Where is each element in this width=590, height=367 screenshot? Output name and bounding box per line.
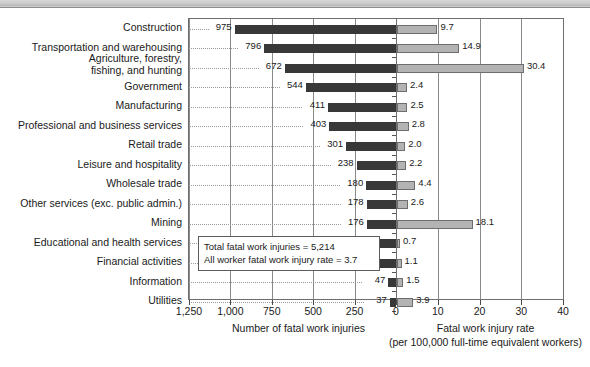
- category-label: Other services (exc. public admin.): [20, 198, 182, 210]
- xlabel-right-10: 10: [432, 305, 444, 317]
- xlabel-left-500: 500: [304, 305, 322, 317]
- bar-injuries: [285, 64, 396, 73]
- value-label-injuries: 47: [360, 274, 385, 285]
- bar-rate: [397, 220, 473, 229]
- value-label-rate: 2.0: [408, 138, 421, 149]
- right-axis-subtitle: (per 100,000 full-time equivalent worker…: [389, 336, 582, 348]
- bar-injuries: [329, 122, 396, 131]
- category-label: Construction: [123, 22, 182, 34]
- bar-rate: [397, 239, 400, 248]
- bar-rate: [397, 161, 406, 170]
- bar-injuries: [367, 220, 396, 229]
- bar-rate: [397, 181, 415, 190]
- category-label: Educational and health services: [34, 237, 182, 249]
- value-label-injuries: 411: [300, 99, 325, 110]
- leader-line: [189, 68, 259, 69]
- value-label-injuries: 238: [329, 157, 354, 168]
- leader-line: [189, 87, 280, 88]
- bar-rate: [397, 25, 437, 34]
- leader-line: [189, 204, 341, 205]
- leader-line: [189, 126, 303, 127]
- category-label: Government: [124, 81, 182, 93]
- value-label-rate: 4.4: [418, 177, 431, 188]
- chart-row: 471.5: [189, 273, 563, 293]
- leader-line: [189, 185, 340, 186]
- leader-line: [189, 282, 362, 283]
- value-label-rate: 2.6: [411, 196, 424, 207]
- bar-rate: [397, 83, 407, 92]
- value-label-rate: 1.5: [406, 274, 419, 285]
- value-label-rate: 2.2: [409, 157, 422, 168]
- annotation-total-injuries: Total fatal work injuries = 5,214: [204, 240, 374, 253]
- xlabel-left-1000: 1,000: [217, 305, 243, 317]
- value-label-injuries: 403: [301, 118, 326, 129]
- value-label-injuries: 180: [338, 177, 363, 188]
- chart-row: 2382.2: [189, 156, 563, 176]
- annotation-all-worker-rate: All worker fatal work injury rate = 3.7: [204, 253, 374, 266]
- value-label-injuries: 975: [207, 21, 232, 32]
- category-label: Wholesale trade: [106, 178, 182, 190]
- chart-row: 4032.8: [189, 117, 563, 137]
- left-axis-title: Number of fatal work injuries: [232, 322, 365, 334]
- chart-row: 3012.0: [189, 137, 563, 157]
- category-label: Manufacturing: [115, 100, 182, 112]
- bar-rate: [397, 44, 459, 53]
- value-label-injuries: 544: [278, 79, 303, 90]
- value-label-injuries: 301: [318, 138, 343, 149]
- chart-row: 1782.6: [189, 195, 563, 215]
- bar-rate: [397, 103, 407, 112]
- xlabel-right-0: 0: [393, 305, 399, 317]
- chart-row: 5442.4: [189, 78, 563, 98]
- chart-row: 79614.9: [189, 39, 563, 59]
- fatal-work-injuries-chart: ConstructionTransportation and warehousi…: [0, 0, 590, 367]
- category-label: Leisure and hospitality: [78, 159, 182, 171]
- xlabel-right-30: 30: [515, 305, 527, 317]
- bar-injuries: [306, 83, 396, 92]
- value-label-injuries: 796: [236, 40, 261, 51]
- value-label-injuries: 176: [339, 216, 364, 227]
- value-label-injuries: 178: [339, 196, 364, 207]
- bar-injuries: [346, 142, 396, 151]
- leader-line: [189, 165, 331, 166]
- value-label-rate: 0.7: [403, 235, 416, 246]
- category-label: Financial activities: [97, 256, 182, 268]
- bar-injuries: [366, 181, 396, 190]
- bar-rate: [397, 122, 409, 131]
- category-label: Retail trade: [128, 139, 182, 151]
- value-label-injuries: 672: [257, 60, 282, 71]
- right-axis-title: Fatal work injury rate: [437, 322, 534, 334]
- value-label-rate: 30.4: [527, 60, 546, 71]
- bar-injuries: [367, 200, 396, 209]
- xlabel-left-1250: 1,250: [176, 305, 202, 317]
- bar-rate: [397, 142, 405, 151]
- bar-injuries: [235, 25, 396, 34]
- category-label: Agriculture, forestry,fishing, and hunti…: [2, 53, 182, 76]
- chart-row: 17618.1: [189, 215, 563, 235]
- bottom-axes: 1,2501,000750500250010203040Number of fa…: [0, 300, 590, 367]
- leader-line: [189, 48, 238, 49]
- category-label: Mining: [151, 217, 182, 229]
- chart-row: 4112.5: [189, 98, 563, 118]
- summary-annotation-box: Total fatal work injuries = 5,214 All wo…: [198, 236, 380, 271]
- category-label: Professional and business services: [18, 120, 182, 132]
- value-label-rate: 1.1: [405, 255, 418, 266]
- bar-injuries: [388, 278, 396, 287]
- bar-rate: [397, 64, 524, 73]
- xlabel-left-750: 750: [263, 305, 281, 317]
- chart-row: 9759.7: [189, 20, 563, 40]
- bar-rate: [397, 200, 408, 209]
- bar-injuries: [357, 161, 396, 170]
- xlabel-left-250: 250: [346, 305, 364, 317]
- bar-injuries: [264, 44, 396, 53]
- chart-row: 67230.4: [189, 59, 563, 79]
- bar-injuries: [378, 259, 396, 268]
- bar-rate: [397, 259, 402, 268]
- value-label-rate: 2.5: [410, 99, 423, 110]
- bar-injuries: [328, 103, 396, 112]
- value-label-rate: 18.1: [476, 216, 495, 227]
- xlabel-right-20: 20: [474, 305, 486, 317]
- value-label-rate: 14.9: [462, 40, 481, 51]
- value-label-rate: 9.7: [440, 21, 453, 32]
- category-axis-labels: ConstructionTransportation and warehousi…: [0, 18, 186, 300]
- value-label-rate: 2.8: [412, 118, 425, 129]
